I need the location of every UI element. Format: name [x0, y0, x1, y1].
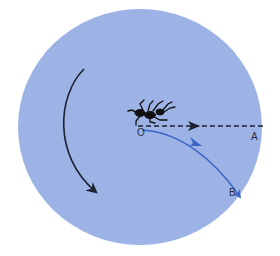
label-origin-o: O: [137, 128, 145, 138]
label-point-b: B: [229, 188, 236, 198]
label-point-a: A: [251, 132, 258, 142]
